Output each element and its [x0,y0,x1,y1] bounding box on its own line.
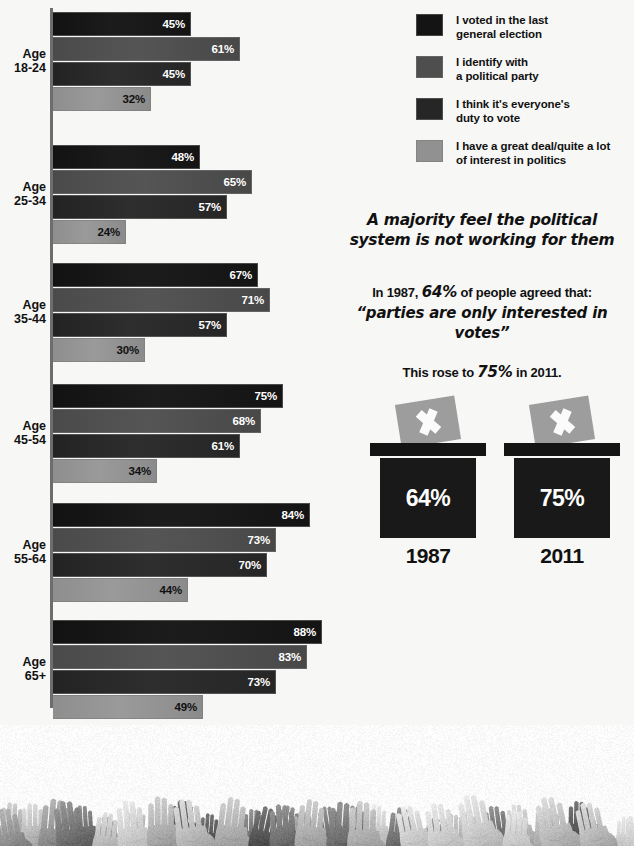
legend-label-line: I have a great deal/quite a lot [456,139,610,153]
age-group-age-18-24: Age18-2445%61%45%32% [0,12,345,112]
age-group-label-line: Age [0,299,46,313]
age-group-age-45-54: Age45-5475%68%61%34% [0,384,345,484]
agreement-prefix: In 1987, [372,285,422,300]
age-group-label-line: Age [0,539,46,553]
legend-label-line: I identify with [456,55,539,69]
statement-block: A majority feel the politicalsystem is n… [330,210,634,381]
age-group-label: Age18-24 [0,48,46,75]
rose-line: This rose to 75% in 2011. [330,363,634,381]
legend-label-line: I think it's everyone's [456,97,570,111]
rose-prefix: This rose to [403,365,478,380]
age-group-label-line: 45-54 [0,434,46,448]
age-group-age-25-34: Age25-3448%65%57%24% [0,145,345,245]
agreement-percent: 64% [422,283,457,301]
age-group-label-line: 55-64 [0,553,46,567]
bar-value-label: 73% [248,676,270,688]
legend-label: I identify witha political party [456,55,539,83]
legend-item-3[interactable]: I have a great deal/quite a lotof intere… [416,139,632,167]
bar-value-label: 67% [230,269,252,281]
bar-series-1: 68% [53,409,261,433]
infographic-root: Age18-2445%61%45%32%Age25-3448%65%57%24%… [0,0,634,846]
age-group-label-line: 25-34 [0,195,46,209]
age-group-label: Age35-44 [0,299,46,326]
bar-series-3: 32% [53,87,151,111]
bar-series-0: 84% [53,503,310,527]
bar-series-1: 83% [53,645,307,669]
ballot-body: 64% [380,458,476,538]
ballot-box-1987: 64%1987 [370,398,486,588]
legend-item-0[interactable]: I voted in the lastgeneral election [416,13,632,41]
age-group-label: Age55-64 [0,539,46,566]
age-group-label-line: 65+ [0,670,46,684]
legend-swatch-icon [416,98,443,120]
x-mark-icon [543,403,582,442]
bar-value-label: 71% [242,294,264,306]
ballot-box-comparison: 64%198775%2011 [370,398,634,588]
bar-series-3: 30% [53,338,145,362]
agreement-line: In 1987, 64% of people agreed that: [330,283,634,301]
bar-value-label: 45% [163,68,185,80]
ballot-year: 2011 [504,544,620,568]
bar-series-0: 75% [53,384,283,408]
bar-series-1: 73% [53,528,276,552]
legend-swatch-icon [416,14,443,36]
ballot-year: 1987 [370,544,486,568]
bar-series-1: 61% [53,37,240,61]
ballot-box-2011: 75%2011 [504,398,620,588]
bar-value-label: 65% [224,176,246,188]
agreement-suffix: of people agreed that: [457,285,592,300]
bar-series-2: 70% [53,553,267,577]
legend-item-1[interactable]: I identify witha political party [416,55,632,83]
age-group-age-55-64: Age55-6484%73%70%44% [0,503,345,603]
bar-series-3: 34% [53,459,157,483]
bar-series-0: 88% [53,620,322,644]
bar-value-label: 57% [199,319,221,331]
bar-series-1: 65% [53,170,252,194]
legend-label: I voted in the lastgeneral election [456,13,548,41]
legend-label: I have a great deal/quite a lotof intere… [456,139,610,167]
bar-value-label: 32% [123,93,145,105]
age-group-label-line: 35-44 [0,313,46,327]
bar-value-label: 68% [233,415,255,427]
ballot-percent: 75% [540,485,585,512]
bar-series-3: 24% [53,220,126,244]
chart-legend: I voted in the lastgeneral electionI ide… [416,13,632,181]
legend-label: I think it's everyone'sduty to vote [456,97,570,125]
bar-value-label: 75% [255,390,277,402]
majority-statement-line: A majority feel the political [330,210,634,230]
majority-statement-line: system is not working for them [330,230,634,250]
bar-value-label: 48% [172,151,194,163]
bar-series-0: 67% [53,263,258,287]
bar-series-0: 48% [53,145,200,169]
majority-statement: A majority feel the politicalsystem is n… [330,210,634,250]
legend-label-line: I voted in the last [456,13,548,27]
bar-value-label: 88% [294,626,316,638]
ballot-body: 75% [514,458,610,538]
age-group-label-line: Age [0,48,46,62]
ballot-percent: 64% [406,485,451,512]
rose-suffix: in 2011. [513,365,562,380]
rose-percent: 75% [477,363,512,381]
legend-label-line: of interest in politics [456,153,610,167]
bar-value-label: 70% [239,559,261,571]
bar-value-label: 84% [282,509,304,521]
bar-value-label: 49% [175,701,197,713]
age-group-age-35-44: Age35-4467%71%57%30% [0,263,345,363]
legend-item-2[interactable]: I think it's everyone'sduty to vote [416,97,632,125]
legend-swatch-icon [416,140,443,162]
bar-series-1: 71% [53,288,270,312]
bar-value-label: 57% [199,201,221,213]
age-group-label-line: Age [0,656,46,670]
bar-series-2: 61% [53,434,240,458]
bar-value-label: 44% [160,584,182,596]
legend-label-line: duty to vote [456,111,570,125]
bar-value-label: 24% [98,226,120,238]
bar-value-label: 45% [163,18,185,30]
bar-value-label: 61% [212,440,234,452]
bar-series-3: 44% [53,578,188,602]
age-group-label-line: Age [0,420,46,434]
age-group-label-line: Age [0,181,46,195]
bar-series-2: 57% [53,195,227,219]
bar-series-2: 73% [53,670,276,694]
bar-value-label: 30% [117,344,139,356]
